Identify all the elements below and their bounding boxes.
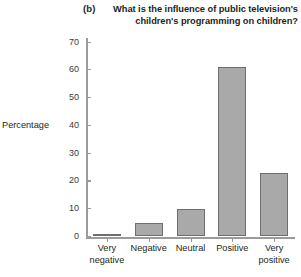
x-tick-mark [149, 238, 150, 242]
y-tick-mark [86, 42, 91, 43]
y-tick-label: 0 [57, 232, 79, 241]
y-tick-mark [86, 180, 91, 181]
y-tick-label: 40 [57, 121, 79, 130]
plot-area: Percentage 010203040506070 VerynegativeN… [0, 0, 301, 277]
y-tick-label: 50 [57, 93, 79, 102]
y-tick-mark [86, 125, 91, 126]
x-tick-label-line: negative [80, 255, 134, 267]
bar [93, 234, 121, 237]
x-tick-label-line: positive [247, 255, 301, 267]
x-tick-label-line: Very [247, 243, 301, 255]
chart-figure: (b) What is the influence of public tele… [0, 0, 301, 277]
y-tick-mark [86, 208, 91, 209]
y-tick-label: 30 [57, 149, 79, 158]
y-tick-label: 10 [57, 204, 79, 213]
y-tick-label: 60 [57, 65, 79, 74]
x-tick-mark [191, 238, 192, 242]
x-tick-label: Verypositive [247, 243, 301, 266]
x-tick-mark [274, 238, 275, 242]
y-tick-label: 70 [57, 38, 79, 47]
y-axis-title: Percentage [2, 120, 64, 130]
y-tick-mark [86, 69, 91, 70]
bar [260, 173, 288, 237]
y-tick-mark [86, 236, 91, 237]
x-tick-mark [232, 238, 233, 242]
bar [218, 67, 246, 236]
y-tick-mark [86, 153, 91, 154]
x-tick-mark [107, 238, 108, 242]
bar [177, 209, 205, 237]
bar [135, 223, 163, 237]
y-tick-mark [86, 97, 91, 98]
y-tick-label: 20 [57, 176, 79, 185]
